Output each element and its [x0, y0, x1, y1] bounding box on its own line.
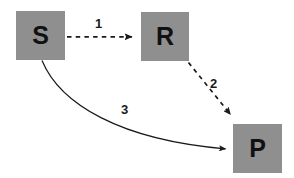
node-label-r: R — [156, 24, 174, 49]
diagram-canvas: S R P 1 2 3 — [0, 0, 294, 178]
edge-label-1: 1 — [95, 17, 102, 30]
node-box-s[interactable]: S — [16, 11, 65, 60]
node-label-p: P — [249, 136, 266, 161]
edge-arrow-3 — [42, 61, 226, 149]
edge-label-2: 2 — [210, 77, 217, 90]
node-box-r[interactable]: R — [141, 12, 189, 61]
edge-label-3: 3 — [121, 103, 128, 116]
node-label-s: S — [32, 23, 49, 48]
node-box-p[interactable]: P — [233, 124, 282, 173]
